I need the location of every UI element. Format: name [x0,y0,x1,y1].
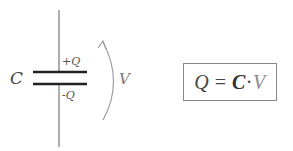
voltage-arrow-icon [103,42,114,120]
arrowhead-icon [98,41,106,49]
formula-equals: = [215,71,227,93]
voltage-label: V [119,70,130,88]
capacitor-label: C [10,68,23,88]
formula-box: Q = C·V [183,63,277,101]
formula-operator: · [246,71,253,93]
formula-capacitance: C [232,71,246,93]
capacitance-formula: Q = C·V [194,71,265,94]
formula-lhs: Q [194,71,209,93]
formula-voltage: V [253,71,266,93]
positive-charge-label: +Q [62,55,80,68]
negative-charge-label: -Q [62,89,75,102]
